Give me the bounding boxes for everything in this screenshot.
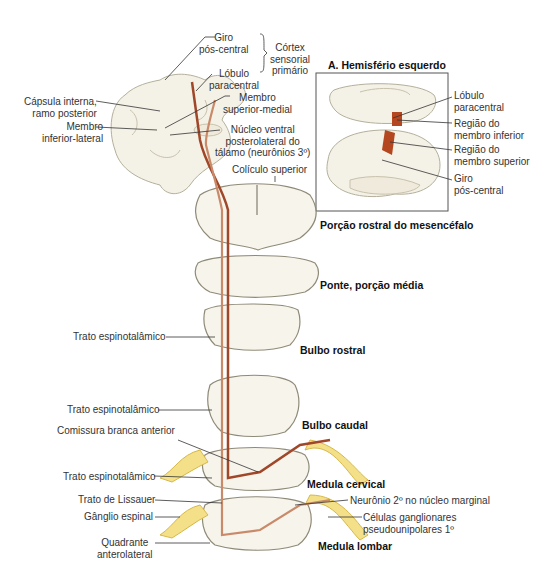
level-bulbo-rostral: Bulbo rostral — [300, 345, 365, 357]
inset-label-lobulo-paracentral: Lóbuloparacentral — [454, 90, 504, 113]
label-neuronio-2: Neurônio 2º no núcleo marginal — [350, 495, 490, 507]
label-quadrante-anterolateral: Quadranteanterolateral — [97, 537, 153, 560]
label-membro-inferior-lateral: Membroinferior-lateral — [42, 121, 103, 144]
level-mesencefalo: Porção rostral do mesencéfalo — [320, 220, 473, 232]
level-medula-cervical: Medula cervical — [307, 479, 385, 491]
label-coliculo-superior: Colículo superior — [232, 164, 307, 176]
inset-label-regiao-membro-superior: Região domembro superior — [454, 144, 530, 167]
label-trato-lissauer: Trato de Lissauer — [78, 494, 155, 506]
label-membro-superior-medial: Membrosuperior-medial — [223, 92, 292, 115]
inset-title: A. Hemisfério esquerdo — [328, 60, 446, 72]
level-medula-lombar: Medula lombar — [318, 541, 392, 553]
label-comissura-branca: Comissura branca anterior — [57, 425, 175, 437]
label-celulas-ganglionares: Células ganglionarespseudounipolares 1º — [363, 512, 456, 535]
level-ponte: Ponte, porção média — [320, 280, 423, 292]
label-giro-pos-central: Giropós-central — [199, 32, 248, 55]
inset-label-regiao-membro-inferior: Região domembro inferior — [454, 118, 524, 141]
brainstem-slices — [195, 184, 318, 551]
label-lobulo-paracentral: Lóbuloparacentral — [209, 68, 259, 91]
label-nucleo-ventral: Núcleo ventralposterolateral dotálamo (n… — [215, 124, 310, 159]
inset-label-giro-pos-central: Giropós-central — [454, 173, 503, 196]
label-trato-espinotalamico-3: Trato espinotalâmico — [63, 471, 155, 483]
label-cortex-sensorial: Córtexsensorialprimário — [270, 42, 310, 77]
label-capsula-interna: Cápsula interna,ramo posterior — [24, 96, 97, 119]
level-bulbo-caudal: Bulbo caudal — [302, 420, 368, 432]
label-trato-espinotalamico-2: Trato espinotalâmico — [67, 404, 159, 416]
inset-hemisphere — [316, 73, 452, 211]
label-ganglio-espinal: Gânglio espinal — [84, 511, 153, 523]
label-trato-espinotalamico-1: Trato espinotalâmico — [73, 331, 165, 343]
